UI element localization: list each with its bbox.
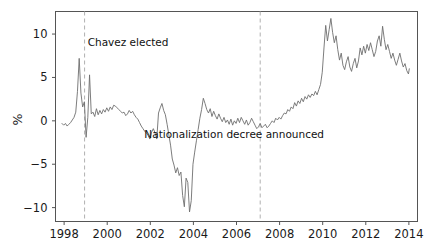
- y-tick-label: −5: [0, 157, 48, 171]
- y-tick-label: 10: [0, 27, 48, 41]
- y-tick-label: −10: [0, 201, 48, 215]
- plot-canvas: [0, 0, 430, 247]
- chart-figure: % 1050−5−10 1998200020022004200620082010…: [0, 0, 430, 247]
- y-tick-label: 0: [0, 114, 48, 128]
- annotation-chavez-elected: Chavez elected: [88, 36, 169, 48]
- y-tick-marks: [52, 34, 56, 208]
- x-tick-marks: [64, 222, 409, 226]
- y-tick-label: 5: [0, 70, 48, 84]
- annotation-nationalization-decree: Nationalization decree announced: [144, 128, 324, 140]
- x-tick-label: 2014: [379, 227, 430, 241]
